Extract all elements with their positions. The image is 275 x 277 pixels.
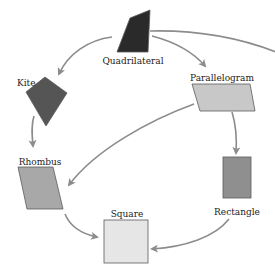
arrow-parallelogram-to-rhombus [69, 104, 194, 185]
rhombus-shape [18, 167, 63, 209]
quadrilateral-shape [117, 10, 150, 52]
quadrilateral-label: Quadrilateral [102, 56, 163, 66]
parallelogram-label: Parallelogram [190, 73, 254, 83]
kite-label: Kite [17, 78, 36, 88]
quadrilateral-hierarchy-diagram: Quadrilateral Kite Parallelogram Rhombus… [0, 0, 275, 277]
arrow-parallelogram-to-rectangle [232, 112, 236, 153]
square-label: Square [111, 209, 144, 219]
node-quadrilateral: Quadrilateral [102, 10, 163, 66]
parallelogram-shape [192, 84, 255, 111]
square-shape [104, 220, 148, 263]
node-rectangle: Rectangle [214, 157, 260, 217]
rectangle-label: Rectangle [214, 207, 260, 217]
node-parallelogram: Parallelogram [190, 73, 255, 111]
arrow-rectangle-to-square [152, 219, 229, 249]
node-kite: Kite [17, 77, 67, 126]
node-rhombus: Rhombus [18, 157, 63, 209]
arrow-rhombus-to-square [65, 214, 97, 237]
node-square: Square [104, 209, 148, 263]
rectangle-shape [223, 157, 251, 198]
arrow-kite-to-rhombus [32, 116, 34, 146]
rhombus-label: Rhombus [19, 157, 62, 167]
